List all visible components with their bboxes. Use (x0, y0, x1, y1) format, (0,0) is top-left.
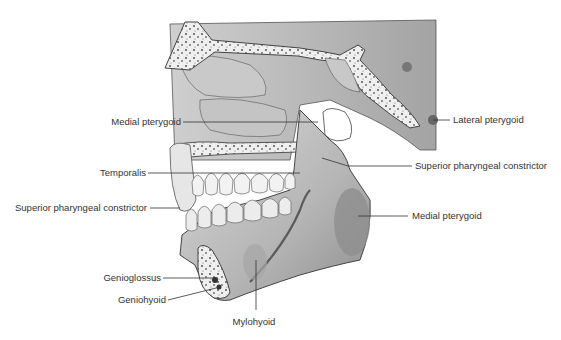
label-medial-pterygoid-upper: Medial pterygoid (63, 116, 181, 127)
label-mylohyoid: Mylohyoid (233, 316, 276, 327)
label-superior-pharyngeal-constrictor-left: Superior pharyngeal constrictor (15, 202, 147, 213)
anatomy-diagram: Medial pterygoid Temporalis Superior pha… (0, 0, 561, 340)
label-superior-pharyngeal-constrictor-right: Superior pharyngeal constrictor (415, 160, 547, 171)
label-temporalis: Temporalis (80, 167, 146, 178)
label-geniohyoid: Geniohyoid (100, 294, 166, 305)
label-medial-pterygoid-lower: Medial pterygoid (412, 210, 482, 221)
label-genioglossus: Genioglossus (90, 272, 161, 283)
label-lateral-pterygoid: Lateral pterygoid (453, 114, 524, 125)
upper-teeth (192, 173, 295, 196)
